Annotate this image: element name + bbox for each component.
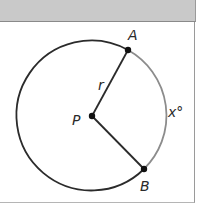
label-r: r — [98, 77, 105, 93]
radius-pb — [92, 116, 144, 169]
label-arc-x: x° — [167, 104, 183, 120]
point-a — [125, 47, 131, 53]
label-a: A — [127, 27, 138, 43]
point-b — [141, 166, 147, 172]
circle-diagram: A r P x° B — [0, 0, 198, 205]
label-b: B — [140, 178, 150, 194]
point-p — [89, 113, 95, 119]
label-p: P — [72, 112, 81, 128]
minor-arc-ab — [128, 50, 166, 169]
